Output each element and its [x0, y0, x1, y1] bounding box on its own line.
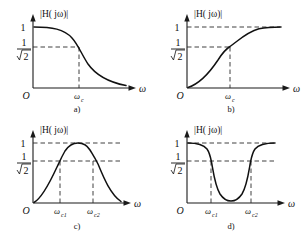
- y-tick-one: 1: [175, 22, 180, 33]
- cutoff-numerator: 1: [176, 37, 181, 48]
- x-tick-wc1-base: ω: [54, 206, 60, 216]
- response-curve: [188, 143, 275, 201]
- y-tick-cutoff: 1 2: [171, 37, 185, 62]
- y-tick-cutoff: 1 2: [171, 151, 185, 176]
- origin-label: O: [176, 90, 183, 101]
- x-tick-wc: ω c: [74, 91, 84, 103]
- response-curve: [34, 27, 126, 86]
- x-tick-wc2: ω c2: [245, 206, 258, 218]
- y-axis-arrow: [30, 130, 35, 138]
- panel-high-pass: |H( jω)| 1 1 2 O ω c ω b): [154, 0, 308, 117]
- omega-axis-label: ω: [293, 83, 300, 94]
- cutoff-denominator: 2: [178, 165, 183, 176]
- cutoff-denominator: 2: [24, 51, 29, 62]
- magnitude-axis-label: |H( jω)|: [194, 9, 222, 20]
- x-tick-wc: ω c: [225, 91, 235, 103]
- cutoff-numerator: 1: [22, 37, 27, 48]
- x-axis-arrow: [283, 85, 291, 90]
- magnitude-axis-label: |H( jω)|: [40, 125, 68, 136]
- magnitude-axis-label: |H( jω)|: [194, 125, 222, 136]
- omega-axis-label: ω: [134, 198, 141, 209]
- x-tick-wc2-base: ω: [87, 206, 93, 216]
- panel-band-stop: |H( jω)| 1 1 2 O ω c1 ω c2 ω d): [154, 118, 308, 235]
- x-axis-arrow: [129, 85, 137, 90]
- x-tick-wc-sub: c: [232, 97, 235, 103]
- filter-response-figure: |H( jω)| 1 1 2 O ω c ω a): [0, 0, 308, 235]
- y-tick-one: 1: [175, 138, 180, 149]
- y-axis-arrow: [184, 14, 189, 22]
- origin-label: O: [176, 205, 183, 216]
- y-tick-one: 1: [21, 138, 26, 149]
- panel-caption: a): [74, 104, 81, 114]
- panel-band-pass: |H( jω)| 1 1 2 O ω c1 ω c2 ω c): [0, 118, 154, 235]
- x-tick-wc1: ω c1: [205, 206, 218, 218]
- x-axis-arrow: [124, 200, 132, 205]
- origin-label: O: [22, 205, 29, 216]
- panel-caption: b): [227, 104, 234, 114]
- x-tick-wc-sub: c: [81, 97, 84, 103]
- panel-low-pass: |H( jω)| 1 1 2 O ω c ω a): [0, 0, 154, 117]
- x-tick-wc1-sub: c1: [212, 212, 218, 218]
- panel-caption: c): [74, 221, 81, 231]
- x-tick-wc-base: ω: [225, 91, 231, 101]
- y-axis-arrow: [184, 130, 189, 138]
- x-tick-wc2-base: ω: [245, 206, 251, 216]
- y-tick-cutoff: 1 2: [17, 37, 31, 62]
- cutoff-denominator: 2: [178, 51, 183, 62]
- magnitude-axis-label: |H( jω)|: [40, 9, 68, 20]
- omega-axis-label: ω: [288, 198, 295, 209]
- cutoff-denominator: 2: [24, 165, 29, 176]
- cutoff-numerator: 1: [22, 151, 27, 162]
- x-tick-wc2-sub: c2: [94, 212, 100, 218]
- y-tick-cutoff: 1 2: [17, 151, 31, 176]
- x-tick-wc1-sub: c1: [61, 212, 67, 218]
- x-tick-wc2: ω c2: [87, 206, 100, 218]
- origin-label: O: [22, 90, 29, 101]
- x-tick-wc2-sub: c2: [252, 212, 258, 218]
- x-axis-arrow: [278, 200, 286, 205]
- y-axis-arrow: [30, 14, 35, 22]
- cutoff-numerator: 1: [176, 151, 181, 162]
- y-tick-one: 1: [21, 22, 26, 33]
- x-tick-wc1: ω c1: [54, 206, 67, 218]
- x-tick-wc1-base: ω: [205, 206, 211, 216]
- panel-caption: d): [227, 221, 234, 231]
- response-curve: [188, 27, 281, 88]
- x-tick-wc-base: ω: [74, 91, 80, 101]
- response-curve: [34, 143, 121, 203]
- omega-axis-label: ω: [139, 83, 146, 94]
